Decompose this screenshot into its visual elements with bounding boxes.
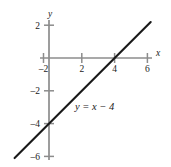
equation-label: y = x − 4 <box>74 101 115 112</box>
y-tick-label--6: –6 <box>30 152 41 162</box>
cropped-text-fragment-left <box>0 88 10 100</box>
x-tick-label-4: 4 <box>112 64 117 74</box>
y-tick-label-2: 2 <box>35 21 40 31</box>
cropped-text-fragment-top <box>18 0 148 8</box>
y-axis-label: y <box>47 9 53 19</box>
graph-figure: –2 2 4 6 2 –2 –4 –6 x y y = x − 4 <box>0 0 171 167</box>
y-tick-label--4: –4 <box>30 119 41 129</box>
x-tick-label--2: –2 <box>38 64 49 74</box>
x-tick-label-6: 6 <box>145 64 150 74</box>
x-tick-label-2: 2 <box>79 64 84 74</box>
x-axis-label: x <box>155 48 161 58</box>
coordinate-plane: –2 2 4 6 2 –2 –4 –6 x y y = x − 4 <box>0 0 171 167</box>
y-tick-label--2: –2 <box>30 86 41 96</box>
